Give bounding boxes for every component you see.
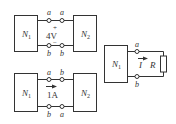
bottom-label-a-right: a xyxy=(60,110,64,119)
current-value: 1A xyxy=(47,90,59,100)
bottom-n1-label: N1 xyxy=(21,88,31,99)
top-terminal-b-right xyxy=(60,44,64,48)
right-terminal-a xyxy=(135,50,139,54)
minus-sign: − xyxy=(53,39,57,47)
current-i-arrow-head xyxy=(143,57,148,61)
right-label-b: b xyxy=(135,80,139,89)
top-terminal-b-left xyxy=(47,44,51,48)
resistor xyxy=(161,56,167,72)
bottom-n2-label: N2 xyxy=(80,88,90,99)
bottom-label-a-left: a xyxy=(47,68,51,77)
top-label-a-left: a xyxy=(47,8,51,17)
top-terminal-a-left xyxy=(47,19,51,23)
right-label-a: a xyxy=(135,40,139,49)
right-n1-label: N1 xyxy=(111,59,121,70)
top-label-b-left: b xyxy=(47,49,51,58)
top-n1-label: N1 xyxy=(21,29,31,40)
right-terminal-b xyxy=(135,75,139,79)
bottom-terminal-b-left xyxy=(47,105,51,109)
current-i-label: I xyxy=(138,60,143,70)
bottom-terminal-a-right xyxy=(60,105,64,109)
top-terminal-a-right xyxy=(60,19,64,23)
bottom-label-b-right: b xyxy=(60,68,64,77)
bottom-terminal-b-right xyxy=(60,78,64,82)
bottom-label-b-left: b xyxy=(47,110,51,119)
top-label-a-right: a xyxy=(60,8,64,17)
top-label-b-right: b xyxy=(60,49,64,58)
top-n2-label: N2 xyxy=(80,29,90,40)
resistor-label: R xyxy=(149,60,156,70)
bottom-terminal-a-left xyxy=(47,78,51,82)
current-arrow-head xyxy=(52,85,57,89)
circuit-diagram: N1 N2 a a b b + 4V − N1 N2 a b b a 1A N1… xyxy=(0,0,176,124)
